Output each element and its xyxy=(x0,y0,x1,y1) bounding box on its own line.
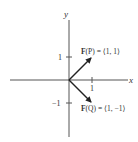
diagram-canvas: y x 1 1 −1 F(P) = ⟨1, 1⟩ F(Q) = ⟨1, −1⟩ xyxy=(0,0,138,142)
vector-fq-label: F(Q) = ⟨1, −1⟩ xyxy=(81,104,125,113)
x-tick-label: 1 xyxy=(90,84,94,93)
vector-fp xyxy=(69,58,91,80)
y-tick-label-neg: −1 xyxy=(52,99,61,108)
vector-fq xyxy=(69,80,91,102)
vector-field-diagram: y x 1 1 −1 F(P) = ⟨1, 1⟩ F(Q) = ⟨1, −1⟩ xyxy=(0,0,138,142)
y-axis-label: y xyxy=(63,9,68,19)
y-tick-label-pos: 1 xyxy=(58,53,62,62)
x-axis-label: x xyxy=(128,75,133,85)
vector-fp-label: F(P) = ⟨1, 1⟩ xyxy=(81,47,120,56)
